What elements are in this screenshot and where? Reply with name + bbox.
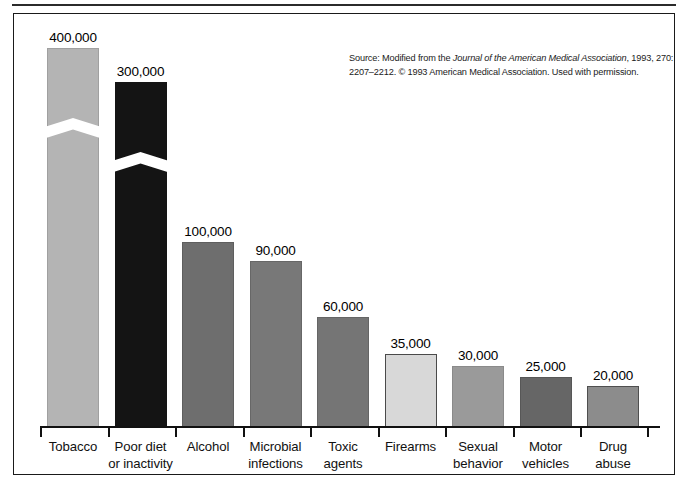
category-label-line-1: Tobacco <box>49 439 97 454</box>
category-label-line-1: Microbial <box>250 439 302 454</box>
bar-toxic-agents: 60,000 <box>317 317 369 427</box>
bar-value-label: 100,000 <box>184 224 231 239</box>
bar-value-label: 25,000 <box>525 359 565 374</box>
category-label-line-2: or inactivity <box>99 455 183 472</box>
bar-rectangle <box>47 48 99 427</box>
category-label-line-1: Motor <box>529 439 562 454</box>
bar-rectangle <box>317 317 369 427</box>
bar-rectangle <box>520 377 572 427</box>
page-top-rule <box>12 4 676 6</box>
category-label-line-1: Toxic <box>328 439 358 454</box>
bar-value-label: 400,000 <box>49 30 96 45</box>
x-axis-tick <box>378 428 380 437</box>
bar-value-label: 300,000 <box>117 64 164 79</box>
bar-sexual-behavior: 30,000 <box>452 366 504 427</box>
bar-value-label: 60,000 <box>323 299 363 314</box>
bar-value-label: 20,000 <box>593 368 633 383</box>
category-label-line-1: Alcohol <box>187 439 230 454</box>
bar-rectangle <box>182 242 234 427</box>
bar-value-label: 90,000 <box>255 243 295 258</box>
bar-microbial-infections: 90,000 <box>250 261 302 427</box>
bar-firearms: 35,000 <box>385 354 437 427</box>
figure-frame: Source: Modified from the Journal of the… <box>13 13 675 475</box>
x-axis-tick <box>243 428 245 437</box>
bar-value-label: 30,000 <box>458 348 498 363</box>
bar-alcohol: 100,000 <box>182 242 234 427</box>
bar-rectangle <box>115 82 167 427</box>
bar-chart-plot-area: 400,000300,000100,00090,00060,00035,0003… <box>40 34 660 427</box>
bar-rectangle <box>452 366 504 427</box>
category-label-line-1: Firearms <box>385 439 436 454</box>
category-label-line-1: Sexual <box>458 439 498 454</box>
category-label-line-1: Poor diet <box>115 439 167 454</box>
category-label-row: TobaccoPoor dietor inactivityAlcoholMicr… <box>40 438 660 486</box>
x-axis-tick <box>310 428 312 437</box>
category-label-drug-abuse: Drugabuse <box>571 438 655 472</box>
bar-rectangle <box>587 386 639 427</box>
x-axis-tick <box>445 428 447 437</box>
bar-drug-abuse: 20,000 <box>587 386 639 427</box>
x-axis-tick <box>108 428 110 437</box>
category-label-line-1: Drug <box>599 439 627 454</box>
bar-value-label: 35,000 <box>390 336 430 351</box>
bar-tobacco: 400,000 <box>47 48 99 427</box>
x-axis-line <box>40 426 660 428</box>
x-axis-tick <box>175 428 177 437</box>
bar-rectangle <box>385 354 437 427</box>
x-axis-tick <box>513 428 515 437</box>
category-label-line-2: abuse <box>571 455 655 472</box>
x-axis-tick <box>580 428 582 437</box>
bar-rectangle <box>250 261 302 427</box>
bar-motor-vehicles: 25,000 <box>520 377 572 427</box>
category-label-line-2: agents <box>301 455 385 472</box>
bar-poor-diet-or-inactivity: 300,000 <box>115 82 167 427</box>
x-axis-tick <box>40 428 42 437</box>
x-axis-tick <box>647 428 649 437</box>
